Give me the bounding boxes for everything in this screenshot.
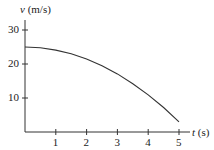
y-axis-label: v (m/s) xyxy=(20,4,51,15)
x-tick-label: 4 xyxy=(145,137,151,148)
y-tick-label: 10 xyxy=(8,92,19,103)
y-axis-unit: (m/s) xyxy=(28,3,51,15)
x-axis-unit: (s) xyxy=(198,126,210,138)
x-axis-label: t (s) xyxy=(192,127,209,138)
x-tick-label: 3 xyxy=(114,137,120,148)
y-axis-var: v xyxy=(20,3,25,15)
chart-canvas xyxy=(0,0,214,150)
x-tick-label: 2 xyxy=(84,137,90,148)
x-axis-var: t xyxy=(192,126,195,138)
velocity-curve xyxy=(25,47,179,122)
y-tick-label: 20 xyxy=(8,58,19,69)
x-tick-label: 1 xyxy=(53,137,59,148)
y-tick-label: 30 xyxy=(8,24,19,35)
x-tick-label: 5 xyxy=(176,137,182,148)
